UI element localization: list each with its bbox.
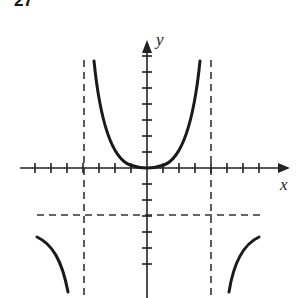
left-branch — [37, 237, 68, 292]
y-axis-arrow-icon — [142, 40, 152, 53]
y-axis-label: y — [154, 30, 164, 49]
y-axis — [142, 50, 152, 298]
graph: x y — [0, 0, 303, 298]
x-axis-label: x — [279, 175, 288, 194]
right-branch — [229, 237, 259, 292]
x-axis-arrow-icon — [278, 163, 290, 173]
